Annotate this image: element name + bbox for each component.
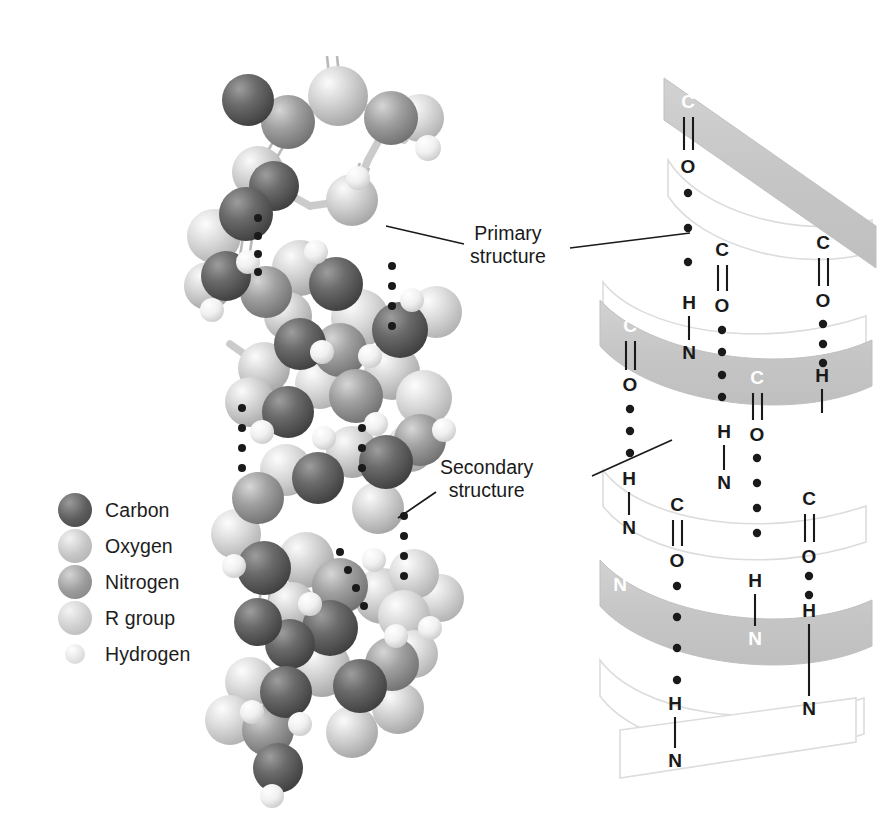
- annotation-secondary-line2: structure: [440, 479, 533, 502]
- legend-item-oxygen: Oxygen: [58, 528, 268, 564]
- legend-label: Hydrogen: [105, 643, 190, 666]
- legend-label: Nitrogen: [105, 571, 180, 594]
- annotation-leader-lines: [0, 0, 883, 815]
- legend-swatch-carbon-icon: [58, 493, 92, 527]
- legend-item-r-group: R group: [58, 600, 268, 636]
- annotation-secondary-structure: Secondary structure: [440, 456, 533, 502]
- annotation-secondary-line1: Secondary: [440, 456, 533, 479]
- legend-item-carbon: Carbon: [58, 492, 268, 528]
- legend-swatch-nitrogen-icon: [58, 565, 92, 599]
- legend-swatch-hydrogen-icon: [65, 644, 85, 664]
- atom-legend: CarbonOxygenNitrogenR groupHydrogen: [58, 492, 268, 672]
- legend-label: R group: [105, 607, 175, 630]
- legend-item-hydrogen: Hydrogen: [58, 636, 268, 672]
- legend-swatch-r-group-icon: [58, 601, 92, 635]
- annotation-primary-line2: structure: [470, 245, 546, 268]
- figure-canvas: COCOCOHNCOCOHNHNHNCOCONHNHNHN Primary st…: [0, 0, 883, 815]
- legend-label: Oxygen: [105, 535, 173, 558]
- annotation-primary-structure: Primary structure: [470, 222, 546, 268]
- annotation-primary-line1: Primary: [470, 222, 546, 245]
- legend-swatch-oxygen-icon: [58, 529, 92, 563]
- legend-item-nitrogen: Nitrogen: [58, 564, 268, 600]
- legend-label: Carbon: [105, 499, 170, 522]
